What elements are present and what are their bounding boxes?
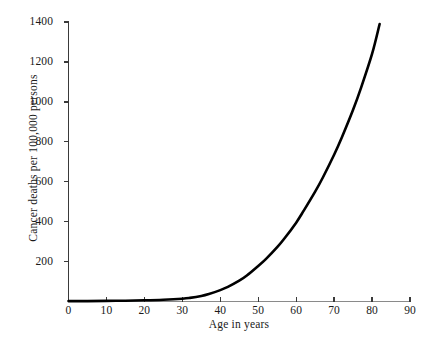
x-axis-tick-label: 20 [139, 305, 151, 317]
chart-axes [68, 22, 410, 302]
x-axis-tick-label: 50 [252, 305, 264, 317]
cancer-death-rate-curve [69, 24, 380, 301]
x-axis-tick-label: 60 [290, 305, 302, 317]
x-axis-title: Age in years [68, 318, 410, 330]
x-axis-tick-label: 40 [214, 305, 226, 317]
x-axis-tick-label: 30 [176, 305, 188, 317]
chart-canvas [0, 0, 422, 339]
x-axis-tick-label: 0 [66, 305, 72, 317]
x-axis-tick-label: 10 [101, 305, 113, 317]
x-axis-tick-label: 80 [366, 305, 378, 317]
y-axis-title: Cancer deaths per 100,000 persons [27, 53, 39, 263]
x-axis-tick-label: 90 [404, 305, 416, 317]
x-axis-tick-label: 70 [328, 305, 340, 317]
chart-figure: 200400600800100012001400 010203040506070… [0, 0, 422, 339]
y-axis-tick-label: 1400 [0, 16, 62, 28]
